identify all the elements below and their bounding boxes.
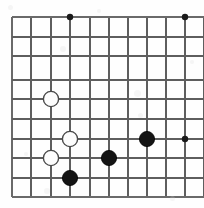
- black-stone[interactable]: Black stone at d9: [62, 170, 77, 185]
- star-point: [182, 14, 188, 20]
- vertical-grid-lines: [12, 17, 204, 197]
- horizontal-grid-lines: [12, 17, 204, 197]
- black-stone[interactable]: Black stone at h7: [139, 131, 154, 146]
- goban-grid[interactable]: White stone at c5White stone at d7White …: [0, 0, 204, 208]
- white-stone[interactable]: White stone at d7: [62, 131, 77, 146]
- go-board-diagram: White stone at c5White stone at d7White …: [0, 0, 204, 208]
- white-stone[interactable]: White stone at c5: [43, 91, 58, 106]
- black-stone[interactable]: Black stone at f8: [101, 150, 116, 165]
- star-point: [182, 136, 188, 142]
- white-stone[interactable]: White stone at c8: [43, 150, 58, 165]
- star-point: [67, 14, 73, 20]
